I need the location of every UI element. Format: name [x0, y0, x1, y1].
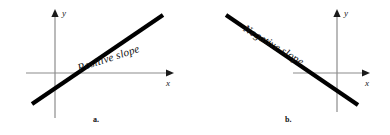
slope-illustration-figure: y x Positive slope a. y x Negative slope…: [0, 0, 390, 135]
x-axis-arrow-icon-a: [166, 69, 174, 76]
x-axis-arrow-icon-b: [362, 69, 370, 76]
y-axis-label-a: y: [62, 9, 66, 18]
y-axis-arrow-icon-b: [333, 9, 340, 17]
panel-positive-slope: y x Positive slope a.: [0, 0, 195, 135]
x-axis-label-b: x: [365, 79, 369, 88]
x-axis-a: [26, 69, 174, 76]
y-axis-a: [51, 9, 58, 118]
panel-caption-b: b.: [285, 115, 291, 124]
panel-negative-slope: y x Negative slope b.: [195, 0, 390, 135]
panel-b-graphic: [195, 0, 390, 135]
x-axis-label-a: x: [166, 79, 170, 88]
y-axis-arrow-icon-a: [51, 9, 58, 17]
y-axis-label-b: y: [344, 9, 348, 18]
y-axis-b: [333, 9, 340, 112]
panel-caption-a: a.: [93, 115, 99, 124]
